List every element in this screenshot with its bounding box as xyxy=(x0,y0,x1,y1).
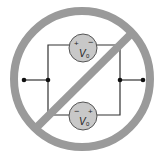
circuit-diagram: + − V 0 − + V 0 xyxy=(0,0,165,158)
minus-sign: − xyxy=(88,37,93,47)
bottom-voltage-source: − + V 0 xyxy=(69,102,97,130)
plus-sign: + xyxy=(74,39,79,48)
diagram-canvas: + − V 0 − + V 0 xyxy=(0,0,165,158)
minus-sign: − xyxy=(74,106,79,116)
plus-sign: + xyxy=(88,107,93,116)
top-voltage-source: + − V 0 xyxy=(69,34,97,62)
